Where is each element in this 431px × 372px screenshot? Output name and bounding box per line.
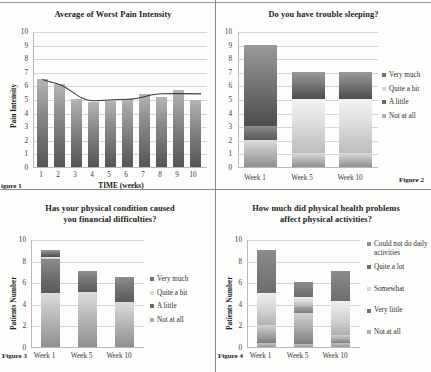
legend-item-quite-a-lot[interactable]: Quite a lot [367, 263, 429, 272]
figure-2-plot [238, 32, 378, 168]
stacked-bar-week-10 [339, 72, 372, 167]
y-tick: 2 [12, 137, 28, 145]
segment-not-at-all [78, 292, 97, 347]
x-tick: Week 10 [311, 352, 359, 360]
segment-very-much [292, 72, 325, 99]
legend-item-not-at-all[interactable]: Not at all [150, 316, 214, 325]
y-tick: 10 [12, 28, 28, 36]
legend-item-very-little[interactable]: Very little [367, 306, 429, 315]
x-tick: Week 10 [95, 352, 143, 360]
x-tick: 7 [134, 171, 152, 179]
figure-4-caption: Figure 4 [218, 352, 243, 360]
y-axis-line [247, 240, 248, 348]
trend-line [33, 32, 207, 168]
segment-very-little [257, 325, 276, 342]
legend-label: A little [389, 98, 409, 106]
y-tick: 0 [10, 344, 26, 352]
legend-label: Very much [157, 275, 188, 283]
legend-label: Not at all [374, 328, 401, 336]
y-axis-line [238, 32, 239, 168]
segment-not-at-all [257, 343, 276, 347]
segment-not-at-all [294, 344, 313, 347]
figure-2-legend: Very much Quite a bit A little Not at al… [382, 71, 431, 125]
legend-item-a-little[interactable]: A little [382, 98, 431, 107]
y-tick: 10 [216, 28, 232, 36]
legend-label: Not at all [389, 112, 416, 120]
legend-label: Could not do daily activities [374, 240, 428, 257]
legend-swatch-icon [382, 87, 386, 91]
legend-swatch-icon [382, 100, 386, 104]
segment-not-at-all [41, 293, 60, 347]
x-axis-line [238, 167, 378, 168]
figure-4-title-line-2: affect physical activities? [226, 215, 426, 226]
figures-page: Average of Worst Pain Intensity [0, 0, 431, 372]
x-tick: Week 10 [324, 174, 376, 182]
y-tick: 9 [12, 42, 28, 50]
x-tick: 6 [117, 171, 135, 179]
figure-3-title-line-1: Has your physical condition caused [14, 204, 206, 215]
legend-item-very-much[interactable]: Very much [150, 275, 214, 284]
segment-not-at-all [339, 153, 372, 167]
stacked-bar-week-1 [41, 250, 60, 347]
y-tick: 1 [216, 150, 232, 158]
x-tick: Week 5 [277, 174, 327, 182]
x-axis-line [247, 347, 360, 348]
y-tick: 6 [216, 82, 232, 90]
stacked-bar-week-10 [115, 277, 134, 347]
figure-4-panel: How much did physical health problems af… [216, 190, 431, 372]
segment-very-much [339, 72, 372, 99]
figure-4-legend: Could not do daily activities Quite a lo… [367, 240, 429, 342]
legend-item-quite-a-bit[interactable]: Quite a bit [150, 289, 214, 298]
y-tick: 8 [10, 258, 26, 266]
x-tick: 4 [83, 171, 101, 179]
legend-label: Very much [389, 71, 420, 79]
legend-item-quite-a-bit[interactable]: Quite a bit [382, 85, 431, 94]
segment-somewhat [331, 301, 350, 336]
y-tick: 10 [226, 236, 242, 244]
figure-4-title-line-1: How much did physical health problems [226, 204, 426, 215]
y-tick: 0 [216, 164, 232, 172]
figure-4-y-axis-title: Patients Number [225, 276, 234, 330]
legend-swatch-icon [150, 291, 154, 295]
y-tick: 2 [216, 137, 232, 145]
stacked-bar-week-5 [294, 282, 313, 347]
segment-very-little [294, 313, 313, 344]
figure-3-title-line-2: you financial difficulties? [14, 215, 206, 226]
legend-item-somewhat[interactable]: Somewhat [367, 285, 429, 294]
segment-quite-a-lot [294, 307, 313, 312]
legend-label: Quite a bit [389, 85, 419, 93]
figure-3-plot [31, 240, 144, 348]
legend-swatch-icon [367, 309, 371, 313]
segment-a-little [115, 277, 134, 302]
stacked-bar-week-1 [244, 45, 277, 167]
segment-a-little [78, 271, 97, 292]
legend-item-not-at-all[interactable]: Not at all [382, 112, 431, 121]
gridline [238, 32, 378, 33]
gridline [247, 240, 360, 241]
segment-somewhat [294, 297, 313, 307]
segment-could-not-do-daily-activities [257, 250, 276, 293]
legend-item-very-much[interactable]: Very much [382, 71, 431, 80]
legend-swatch-icon [382, 73, 386, 77]
legend-swatch-icon [367, 265, 371, 269]
legend-item-a-little[interactable]: A little [150, 302, 214, 311]
segment-a-little [41, 259, 60, 294]
figure-3-y-axis-title: Patients Number [9, 276, 18, 330]
x-tick: 5 [100, 171, 118, 179]
legend-item-could-not-do-daily-activities[interactable]: Could not do daily activities [367, 240, 429, 257]
legend-item-not-at-all[interactable]: Not at all [367, 328, 429, 337]
legend-swatch-icon [367, 242, 371, 246]
y-tick: 1 [12, 150, 28, 158]
x-tick: 3 [66, 171, 84, 179]
y-tick: 10 [10, 236, 26, 244]
stacked-bar-week-10 [331, 271, 350, 347]
y-tick: 7 [216, 69, 232, 77]
segment-very-little [331, 335, 350, 343]
y-tick: 0 [12, 164, 28, 172]
figure-1-title: Average of Worst Pain Intensity [18, 10, 208, 21]
segment-could-not-do-daily-activities [294, 282, 313, 297]
gridline [31, 240, 144, 241]
segment-somewhat [257, 293, 276, 325]
legend-label: Not at all [157, 316, 184, 324]
x-tick: 10 [184, 171, 202, 179]
